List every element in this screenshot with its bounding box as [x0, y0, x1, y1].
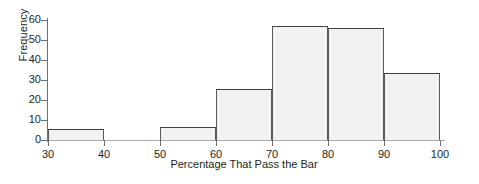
x-tick-mark: [384, 140, 385, 146]
y-tick-mark: [41, 80, 47, 81]
y-tick-label: 60: [1, 14, 41, 25]
histogram-bar: [216, 89, 272, 140]
x-tick-mark: [160, 140, 161, 146]
histogram-bar: [272, 26, 328, 140]
x-tick-mark: [48, 140, 49, 146]
y-tick-mark: [41, 120, 47, 121]
y-tick-mark: [41, 20, 47, 21]
y-tick-label: 20: [1, 94, 41, 105]
plot-area: [48, 20, 440, 140]
y-tick-mark: [41, 60, 47, 61]
x-tick-mark: [328, 140, 329, 146]
y-tick-label: 10: [1, 114, 41, 125]
y-tick-mark: [41, 40, 47, 41]
y-tick-mark: [41, 140, 47, 141]
histogram-chart: Frequency 0102030405060 3040506070809010…: [0, 0, 479, 184]
histogram-bar: [384, 73, 440, 140]
x-axis-label: Percentage That Pass the Bar: [48, 158, 440, 170]
y-tick-label: 40: [1, 54, 41, 65]
y-tick-mark: [41, 100, 47, 101]
histogram-bar: [160, 127, 216, 140]
x-tick-mark: [272, 140, 273, 146]
x-tick-mark: [440, 140, 441, 146]
histogram-bar: [48, 129, 104, 140]
x-axis-line: [47, 140, 445, 141]
y-tick-label: 0: [1, 134, 41, 145]
y-tick-label: 50: [1, 34, 41, 45]
x-tick-mark: [104, 140, 105, 146]
histogram-bar: [328, 28, 384, 140]
y-tick-label: 30: [1, 74, 41, 85]
x-tick-mark: [216, 140, 217, 146]
